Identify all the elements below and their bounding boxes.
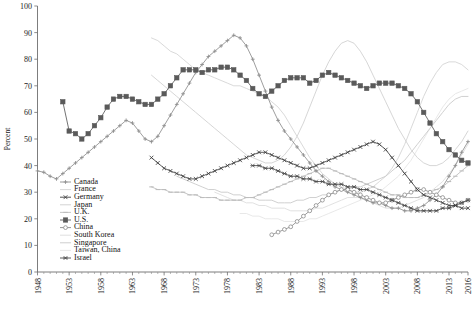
- x-tick-label: 1953: [65, 278, 74, 294]
- line-chart: 0102030405060708090100 19481953195819631…: [0, 0, 474, 312]
- x-axis-tick-labels: 1948195319581963196819731978198319881993…: [34, 278, 474, 294]
- chart-series-group: [36, 33, 471, 236]
- legend-item-israel[interactable]: Israel: [60, 253, 93, 262]
- x-tick-label: 1958: [97, 278, 106, 294]
- y-tick-label: 60: [24, 108, 32, 117]
- legend-marker-icon: [64, 180, 68, 184]
- series-u-s-: [61, 65, 471, 165]
- chart-legend: CanadaFranceGermanyJapanU.K.U.S.ChinaSou…: [60, 177, 121, 262]
- x-tick-label: 2016: [464, 278, 473, 294]
- y-axis-label: Percent: [3, 127, 12, 150]
- legend-label: Israel: [74, 253, 93, 262]
- y-tick-label: 70: [24, 82, 32, 91]
- legend-marker-icon: [63, 218, 67, 222]
- x-tick-label: 1988: [287, 278, 296, 294]
- x-tick-label: 2008: [413, 278, 422, 294]
- x-tick-label: 2003: [382, 278, 391, 294]
- x-tick-label: 1963: [128, 278, 137, 294]
- x-tick-label: 2013: [445, 278, 454, 294]
- y-axis-title: Percent: [3, 127, 12, 150]
- chart-container: 0102030405060708090100 19481953195819631…: [0, 0, 474, 312]
- series-germany: [150, 140, 470, 210]
- y-tick-label: 50: [24, 135, 32, 144]
- y-tick-label: 100: [20, 2, 32, 11]
- legend-marker-icon: [64, 226, 68, 230]
- x-tick-label: 1978: [223, 278, 232, 294]
- x-tick-label: 1993: [318, 278, 327, 294]
- x-tick-label: 1948: [34, 278, 43, 294]
- series-china: [270, 188, 470, 237]
- y-tick-label: 80: [24, 55, 32, 64]
- legend-marker-icon: [63, 256, 68, 260]
- y-tick-label: 0: [28, 268, 32, 277]
- series-u-k-: [149, 166, 470, 201]
- y-tick-label: 10: [24, 241, 32, 250]
- y-tick-label: 40: [24, 162, 32, 171]
- series-canada: [36, 33, 470, 212]
- y-tick-label: 90: [24, 29, 32, 38]
- x-tick-label: 1983: [255, 278, 264, 294]
- x-tick-label: 1968: [160, 278, 169, 294]
- series-japan: [151, 41, 468, 166]
- series-israel: [250, 164, 470, 213]
- x-tick-label: 1998: [350, 278, 359, 294]
- y-tick-label: 30: [24, 188, 32, 197]
- y-tick-label: 20: [24, 215, 32, 224]
- x-tick-label: 1973: [192, 278, 201, 294]
- y-axis-tick-labels: 0102030405060708090100: [20, 2, 32, 277]
